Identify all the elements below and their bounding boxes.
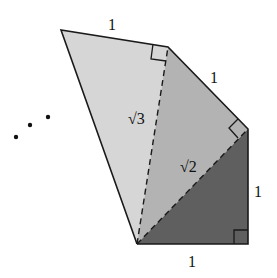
label-right-leg: 1 <box>254 183 262 200</box>
spiral-diagram: 1 1 1 1 √2 √3 <box>0 0 277 278</box>
label-hyp-sqrt2: √2 <box>180 158 197 175</box>
label-hyp-sqrt3: √3 <box>128 110 145 127</box>
label-upper-right-leg: 1 <box>210 69 218 86</box>
label-top-leg: 1 <box>108 16 116 33</box>
continuation-dot <box>28 123 32 127</box>
label-bottom-leg: 1 <box>188 253 196 270</box>
continuation-dot <box>14 135 18 139</box>
continuation-dot <box>46 115 50 119</box>
